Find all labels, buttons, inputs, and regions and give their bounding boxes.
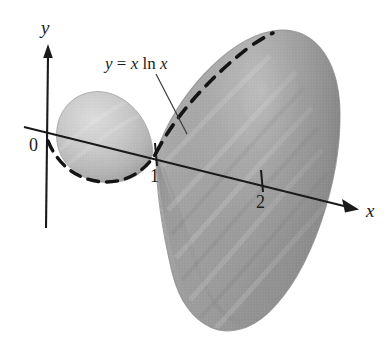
figure-canvas: y x 0 1 2 y = x ln x xyxy=(0,0,389,357)
curve-eq-y: y xyxy=(105,54,113,73)
x-axis-label: x xyxy=(366,201,374,220)
x-tick-label-1: 1 xyxy=(150,167,159,185)
curve-eq-x2: x xyxy=(160,54,168,73)
origin-label: 0 xyxy=(29,136,38,154)
curve-equation-label: y = x ln x xyxy=(105,55,167,72)
x-axis-arrowhead xyxy=(342,199,359,213)
y-axis-arrowhead xyxy=(43,44,53,58)
y-axis xyxy=(43,44,53,228)
curve-eq-ln: ln xyxy=(142,54,155,73)
y-axis-label: y xyxy=(41,18,49,37)
surface-lobe-right xyxy=(0,0,389,357)
x-tick-label-2: 2 xyxy=(256,193,265,211)
curve-eq-equals: = xyxy=(117,54,127,73)
surface-of-revolution-graphic xyxy=(0,0,389,357)
